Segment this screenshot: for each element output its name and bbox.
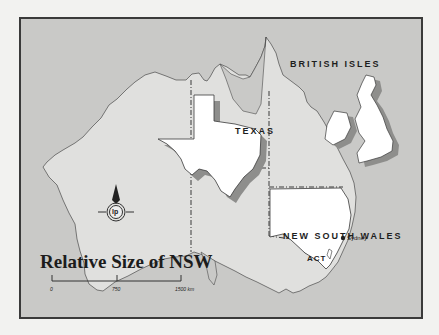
lp-logo-text: lp [112, 208, 118, 215]
british-isles-label: BRITISH ISLES [290, 59, 381, 69]
map-frame: BRITISH ISLES TEXAS NEW SOUTH WALES ACT … [19, 17, 423, 319]
scale-tick-0: 0 [50, 286, 53, 292]
scale-bar [52, 275, 181, 281]
map-title: Relative Size of NSW [40, 251, 213, 273]
sydney-label: Sydney [347, 235, 367, 241]
nsw-label: NEW SOUTH WALES [283, 231, 403, 241]
scale-tick-1500: 1500 km [175, 286, 194, 292]
act-label: ACT [307, 254, 326, 263]
scale-tick-750: 750 [112, 286, 120, 292]
texas-label: TEXAS [235, 126, 275, 136]
